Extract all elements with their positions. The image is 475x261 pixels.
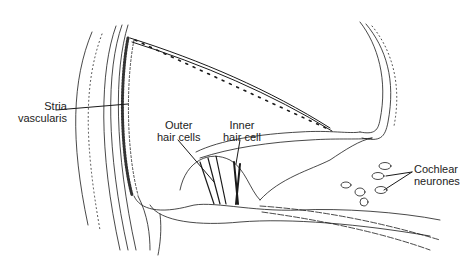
label-inner-hair-cell: Inner hair cell xyxy=(223,119,261,143)
bony-wall-outer-line xyxy=(76,32,92,225)
cochlea-diagram: Stria vascularis Outer hair cells Inner … xyxy=(0,0,475,261)
neurone-cell xyxy=(372,173,384,180)
label-cochlear-neurones: Cochlear neurones xyxy=(414,163,460,187)
inner-hair-leader-line xyxy=(236,140,240,164)
inner-hair-cell-body xyxy=(234,162,240,204)
neurones-leader-line xyxy=(384,172,412,190)
label-stria-vascularis: Stria vascularis xyxy=(18,100,67,124)
label-outer-hair-cells: Outer hair cells xyxy=(157,119,200,143)
